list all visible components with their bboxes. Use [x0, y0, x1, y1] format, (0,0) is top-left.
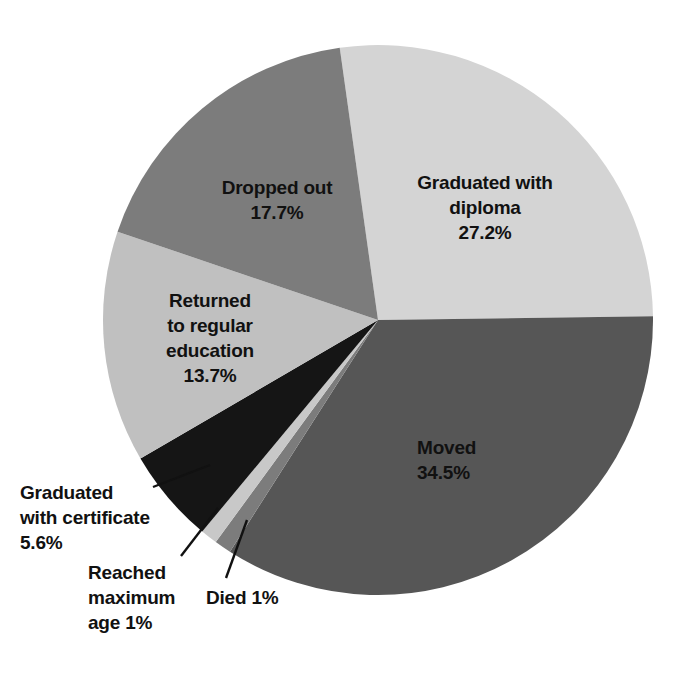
pie-label-reached-maximum-age: Reached maximum age 1%: [88, 560, 218, 635]
pie-label-graduated-with-certificate: Graduated with certificate 5.6%: [20, 480, 205, 555]
pie-label-dropped-out: Dropped out 17.7%: [197, 175, 357, 225]
pie-label-moved: Moved 34.5%: [417, 435, 547, 485]
pie-label-returned-to-regular-education: Returned to regular education 13.7%: [135, 288, 285, 388]
pie-label-graduated-with-diploma: Graduated with diploma 27.2%: [400, 170, 570, 245]
pie-label-died: Died 1%: [206, 585, 316, 610]
pie-chart: Graduated with diploma 27.2% Dropped out…: [0, 0, 686, 684]
